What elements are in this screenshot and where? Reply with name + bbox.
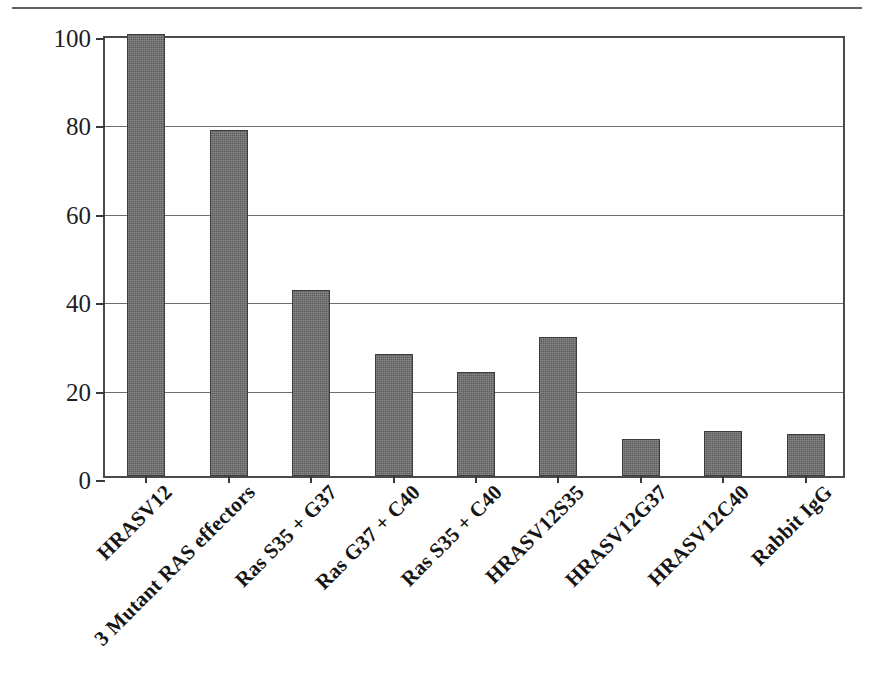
bars-layer — [105, 38, 843, 476]
bar[interactable] — [210, 130, 248, 476]
y-axis-tick — [96, 392, 105, 394]
bar-slot — [352, 38, 434, 476]
top-horizontal-rule — [12, 7, 862, 9]
bar-slot — [682, 38, 764, 476]
bar-slot — [765, 38, 847, 476]
bar[interactable] — [292, 290, 330, 476]
y-axis-tick-label: 60 — [66, 202, 91, 227]
y-axis-tick — [96, 126, 105, 128]
bar-slot — [600, 38, 682, 476]
bar-slot — [105, 38, 187, 476]
bar[interactable] — [787, 434, 825, 476]
bar[interactable] — [539, 337, 577, 476]
y-axis-tick — [96, 38, 105, 40]
bar[interactable] — [704, 431, 742, 476]
bar-slot — [270, 38, 352, 476]
bar-slot — [435, 38, 517, 476]
bar-slot — [517, 38, 599, 476]
bar[interactable] — [622, 439, 660, 476]
bar[interactable] — [375, 354, 413, 476]
y-axis-tick-label: 20 — [66, 379, 91, 404]
x-axis-label: HRASV12 — [92, 480, 177, 565]
y-axis-title: BrdU labelling index (%) — [8, 0, 44, 72]
bar[interactable] — [127, 34, 165, 476]
bar[interactable] — [457, 372, 495, 476]
y-axis-tick — [96, 215, 105, 217]
x-axis-label: 3 Mutant RAS effectors — [89, 480, 260, 651]
y-axis-tick-label: 100 — [54, 26, 92, 51]
x-axis-label: Rabbit IgG — [746, 480, 837, 571]
y-axis-tick — [96, 303, 105, 305]
plot-area: 020406080100 — [103, 36, 845, 478]
y-axis-tick-label: 0 — [79, 468, 92, 493]
y-axis-tick-label: 80 — [66, 114, 91, 139]
x-axis-labels: HRASV123 Mutant RAS effectorsRas S35 + G… — [103, 480, 845, 680]
figure-container: BrdU labelling index (%) 020406080100 HR… — [0, 0, 874, 688]
y-axis-tick-label: 40 — [66, 291, 91, 316]
bar-slot — [187, 38, 269, 476]
